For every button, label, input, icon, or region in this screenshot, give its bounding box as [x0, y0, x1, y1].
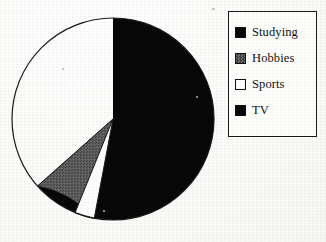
legend-item-sports[interactable]: Sports	[235, 71, 312, 97]
legend-swatch-studying	[235, 27, 246, 38]
legend-label-sports: Sports	[252, 78, 285, 91]
legend-label-tv: TV	[252, 104, 269, 117]
pie-svg	[11, 17, 216, 222]
legend-item-hobbies[interactable]: Hobbies	[235, 45, 312, 71]
legend-label-studying: Studying	[252, 26, 298, 39]
legend-items: Studying Hobbies Sports TV	[235, 19, 312, 123]
legend-swatch-sports	[235, 79, 246, 90]
legend-item-studying[interactable]: Studying	[235, 19, 312, 45]
pie-chart	[11, 17, 216, 222]
legend-swatch-tv	[235, 105, 246, 116]
legend-item-tv[interactable]: TV	[235, 97, 312, 123]
pie-slices	[38, 18, 215, 220]
legend: Studying Hobbies Sports TV	[228, 11, 317, 137]
legend-swatch-hobbies	[235, 53, 246, 64]
legend-label-hobbies: Hobbies	[252, 52, 294, 65]
scan-speck	[212, 8, 215, 10]
figure-canvas: Studying Hobbies Sports TV	[0, 0, 326, 242]
